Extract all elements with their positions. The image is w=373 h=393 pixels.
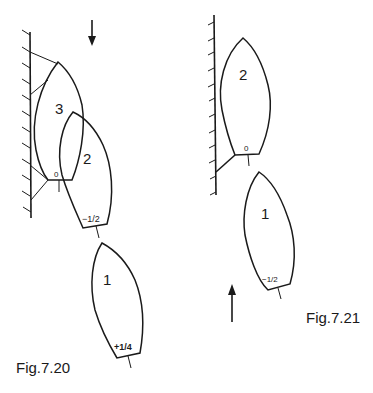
- stern-mark: −1/2: [82, 214, 100, 224]
- boat-2: 2 0: [220, 38, 270, 166]
- stern-mark: 0: [244, 144, 249, 153]
- boat-number: 3: [55, 100, 63, 117]
- stern-mark: 0: [54, 170, 59, 179]
- stern-mark: −1/2: [262, 275, 278, 284]
- quay-wall: [208, 15, 216, 195]
- boat-number: 2: [83, 150, 91, 167]
- stern-mark: +1/4: [114, 342, 132, 352]
- boat-number: 2: [239, 66, 247, 83]
- boat-number: 1: [103, 271, 111, 288]
- figure-7-21: 2 0 1 −1/2 Fig.7.21: [208, 15, 360, 326]
- direction-arrow-up-icon: [228, 284, 236, 322]
- boat-number: 1: [261, 205, 269, 222]
- quay-wall: [22, 30, 31, 218]
- direction-arrow-down-icon: [88, 20, 96, 46]
- mooring-line: [216, 155, 235, 172]
- figure-caption: Fig.7.20: [16, 359, 70, 376]
- boat-3: 3 0: [34, 62, 83, 192]
- boat-2: 2 −1/2: [60, 112, 112, 238]
- figure-caption: Fig.7.21: [306, 309, 360, 326]
- figure-7-20: 3 0 2 −1/2 1 +1/4 Fig.7.20: [16, 20, 143, 376]
- boat-1: 1 +1/4: [92, 243, 143, 368]
- boat-1: 1 −1/2: [244, 172, 294, 299]
